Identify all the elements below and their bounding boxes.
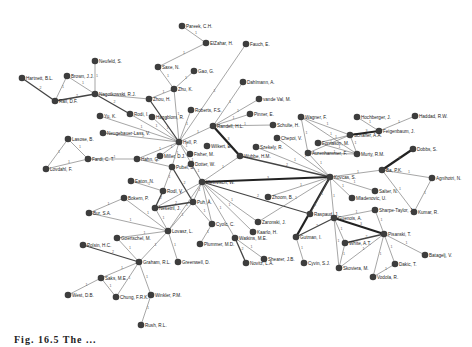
node-label: Polsin, H.C. bbox=[87, 243, 111, 248]
edge-graham-winkler bbox=[139, 262, 151, 295]
node-dot bbox=[265, 194, 272, 201]
edge-weight-label: 1 bbox=[330, 132, 332, 136]
graph-node-hahn: Hahn, G. bbox=[134, 156, 160, 163]
node-label: Skoviera, M. bbox=[343, 266, 369, 271]
edge-layer: 1111111211122211111111111111113112111111… bbox=[22, 26, 432, 325]
node-label: Batagelj, V. bbox=[429, 253, 452, 258]
node-label: Chung, F.R.K. bbox=[120, 295, 149, 300]
node-dot bbox=[412, 113, 419, 120]
edge-weight-label: 1 bbox=[174, 243, 176, 247]
edge-weight-label: 2 bbox=[112, 250, 114, 254]
graph-node-novitz: Novitz, L.A. bbox=[243, 260, 274, 267]
node-dot bbox=[97, 113, 104, 120]
edge-weight-label: 1 bbox=[341, 227, 343, 231]
graph-node-miller: Miller, D.J. bbox=[157, 153, 186, 160]
node-dot bbox=[381, 231, 388, 238]
edge-weight-label: 1 bbox=[185, 76, 187, 80]
edge-weight-label: 1 bbox=[231, 198, 233, 202]
node-dot bbox=[157, 153, 164, 160]
graph-node-rail: Rail, D.F. bbox=[52, 98, 78, 105]
node-dot bbox=[128, 178, 135, 185]
edge-wubbe-kovcas bbox=[240, 156, 330, 177]
node-label: Roberts, F.S. bbox=[195, 108, 222, 113]
node-dot bbox=[92, 91, 99, 98]
node-label: Brown, J.J. bbox=[71, 74, 94, 79]
edge-weight-label: 1 bbox=[233, 116, 235, 120]
edge-weight-label: 1 bbox=[82, 81, 84, 85]
graph-node-mladenovic: Mladenovic, U. bbox=[349, 195, 387, 202]
node-label: White, A.T. bbox=[349, 241, 371, 246]
node-label: Agnihotri, N. bbox=[436, 176, 461, 181]
graph-node-lovdahl: Lovdahl, F. bbox=[43, 166, 73, 173]
edge-weight-label: 1 bbox=[380, 252, 382, 256]
node-label: Zhu, K. bbox=[178, 87, 193, 92]
node-label: Lovdahl, F. bbox=[50, 167, 72, 172]
node-dot bbox=[146, 96, 153, 103]
edge-weight-label: 2 bbox=[40, 86, 42, 90]
edge-weight-label: 1 bbox=[129, 246, 131, 250]
node-label: Lovasz, L. bbox=[172, 229, 193, 234]
graph-node-watkins: Watkins, M.E. bbox=[232, 235, 267, 242]
node-dot bbox=[113, 294, 120, 301]
graph-node-eaton: Eaton, N. bbox=[128, 178, 154, 185]
node-label: Cyvin, S.J. bbox=[308, 261, 330, 266]
edge-weight-label: 1 bbox=[147, 306, 149, 310]
edge-saxe-zhu bbox=[158, 67, 174, 89]
node-label: vande Val, M. bbox=[263, 97, 291, 102]
node-dot bbox=[138, 322, 145, 329]
node-label: Goertschel, M. bbox=[121, 236, 151, 241]
node-dot bbox=[253, 144, 260, 151]
edge-pubel-rodl bbox=[163, 167, 172, 191]
node-dot bbox=[247, 111, 254, 118]
collaboration-network-graph: 1111111211122211111111111111113112111111… bbox=[0, 0, 472, 347]
node-dot bbox=[392, 261, 399, 268]
node-label: Pisanski, T. bbox=[388, 232, 411, 237]
node-dot bbox=[64, 73, 71, 80]
node-label: Novitz, L.A. bbox=[250, 261, 274, 266]
graph-node-neugebauer: Neugebauer-Lass, V. bbox=[100, 130, 150, 137]
graph-node-cyolc: Cyolc, C. bbox=[209, 221, 235, 228]
node-dot bbox=[411, 209, 418, 216]
node-dot bbox=[232, 235, 239, 242]
edge-weight-label: 1 bbox=[327, 122, 329, 126]
graph-node-saks: Saks, M.E. bbox=[98, 275, 128, 282]
edge-weight-label: 1 bbox=[398, 120, 400, 124]
graph-node-schaffer: Schaffer, A.A. bbox=[347, 132, 382, 139]
node-dot bbox=[160, 188, 167, 195]
graph-node-boken: Bokern, P. bbox=[121, 195, 149, 202]
edge-weight-label: 1 bbox=[399, 187, 401, 191]
node-label: Fauch, E. bbox=[250, 42, 270, 47]
edge-weight-label: 1 bbox=[167, 74, 169, 78]
graph-node-kaarlo: Kaarlo, H. bbox=[250, 229, 278, 236]
edge-weight-label: 1 bbox=[244, 122, 246, 126]
edge-weight-label: 1 bbox=[108, 202, 110, 206]
edge-weight-label: 1 bbox=[156, 124, 158, 128]
edge-rainbold-wubbe bbox=[213, 126, 240, 156]
node-label: Dobbs, S. bbox=[417, 147, 437, 152]
edge-dahlmann-rainbold bbox=[213, 82, 243, 126]
edge-weight-label: 1 bbox=[68, 160, 70, 164]
graph-node-winkler: Winkler, P.M. bbox=[148, 292, 182, 299]
node-label: Wubbe, H.M. bbox=[244, 154, 271, 159]
edge-weight-label: 1 bbox=[306, 131, 308, 135]
node-label: Greenwell, D. bbox=[182, 260, 210, 265]
node-label: Kaarlo, H. bbox=[257, 230, 277, 235]
edge-weight-label: 1 bbox=[79, 145, 81, 149]
edge-weight-label: 1 bbox=[424, 191, 426, 195]
edge-weight-label: 1 bbox=[222, 165, 224, 169]
graph-node-agnihotri: Agnihotri, N. bbox=[429, 175, 462, 182]
graph-node-hochberger: Hochberger, J. bbox=[354, 114, 391, 121]
node-dot bbox=[197, 241, 204, 248]
edge-weight-label: 1 bbox=[182, 213, 184, 217]
edge-weight-label: 1 bbox=[363, 247, 365, 251]
edge-weight-label: 2 bbox=[286, 163, 288, 167]
edge-weight-label: 1 bbox=[321, 192, 323, 196]
edge-weight-label: 1 bbox=[381, 218, 383, 222]
edge-hartnett-rail bbox=[22, 78, 55, 101]
node-label: Salter, N. bbox=[379, 189, 398, 194]
edge-weight-label: 1 bbox=[169, 175, 171, 179]
graph-node-kleinvisch: Kleinvisch, W. bbox=[199, 179, 235, 186]
node-dot bbox=[43, 166, 50, 173]
node-label: Kumar, R. bbox=[418, 210, 438, 215]
node-dot bbox=[169, 164, 176, 171]
